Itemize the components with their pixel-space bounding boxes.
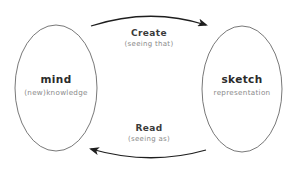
create-arrow bbox=[91, 16, 206, 26]
read-edge-sublabel: (seeing as) bbox=[128, 135, 170, 143]
read-arrow bbox=[91, 149, 206, 158]
diagram-canvas bbox=[0, 0, 295, 171]
mind-node-title: mind bbox=[40, 73, 71, 85]
sketch-node-title: sketch bbox=[221, 73, 262, 85]
create-edge-label: Create bbox=[131, 28, 167, 38]
sketch-node-subtitle: representation bbox=[214, 88, 271, 97]
mind-node-subtitle: (new)knowledge bbox=[24, 88, 88, 97]
read-edge-label: Read bbox=[135, 123, 162, 133]
create-edge-sublabel: (seeing that) bbox=[125, 40, 174, 48]
